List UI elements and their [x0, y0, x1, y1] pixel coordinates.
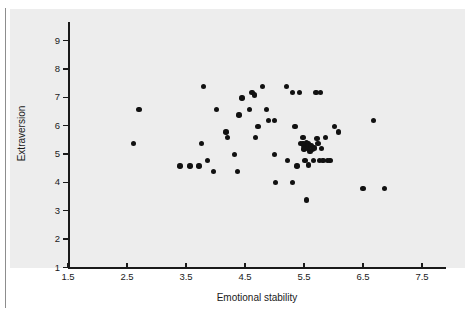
scatter-point — [292, 124, 297, 129]
scatter-point — [304, 197, 309, 202]
scatter-point — [211, 169, 216, 174]
scatter-point — [205, 158, 210, 163]
scatter-point — [260, 84, 265, 89]
scatter-point — [236, 112, 241, 117]
scatter-point — [306, 162, 311, 167]
scatter-point — [318, 90, 323, 95]
scatter-point — [371, 118, 376, 123]
scatter-point — [311, 158, 316, 163]
scatter-point — [285, 158, 290, 163]
scatter-point — [284, 84, 289, 89]
scatter-point — [196, 163, 201, 168]
scatter-point — [360, 186, 365, 191]
y-axis-title: Extraversion — [16, 69, 27, 199]
figure-container: 123456789 1.52.53.54.55.56.57.5 Extraver… — [0, 0, 475, 316]
scatter-point — [382, 186, 387, 191]
scatter-point — [223, 129, 228, 134]
scatter-point — [266, 118, 271, 123]
scatter-point — [239, 95, 244, 100]
scatter-point — [290, 180, 295, 185]
scatter-point — [336, 129, 341, 134]
scatter-point — [136, 107, 141, 112]
scatter-point — [187, 163, 192, 168]
x-axis-title: Emotional stability — [68, 292, 446, 303]
scatter-point — [253, 135, 258, 140]
scatter-point — [214, 107, 219, 112]
scatter-point — [332, 124, 337, 129]
scatter-point — [232, 152, 237, 157]
scatter-point — [177, 163, 182, 168]
scatter-point — [327, 158, 332, 163]
scatter-point — [199, 141, 204, 146]
scatter-point — [319, 146, 324, 151]
scatter-point — [290, 90, 295, 95]
scatter-point — [131, 141, 136, 146]
scatter-points-layer — [0, 0, 475, 316]
scatter-point — [297, 90, 302, 95]
scatter-point — [300, 141, 305, 146]
scatter-point — [323, 135, 328, 140]
scatter-point — [235, 169, 240, 174]
scatter-point — [247, 107, 252, 112]
scatter-point — [273, 180, 278, 185]
scatter-point — [255, 124, 260, 129]
scatter-point — [201, 84, 206, 89]
scatter-point — [264, 107, 269, 112]
scatter-point — [252, 92, 257, 97]
scatter-point — [225, 135, 230, 140]
scatter-point — [272, 152, 277, 157]
scatter-point — [272, 118, 277, 123]
scatter-point — [294, 163, 299, 168]
